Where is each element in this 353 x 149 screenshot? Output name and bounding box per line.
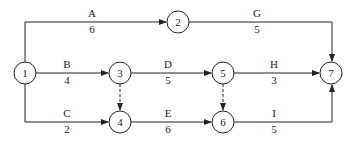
activity-b-duration: 4 bbox=[64, 74, 70, 86]
node-5: 5 bbox=[212, 62, 234, 84]
activity-g-duration: 5 bbox=[254, 23, 260, 35]
activity-c-name: C bbox=[63, 107, 70, 119]
activity-i-name: I bbox=[272, 107, 276, 119]
activity-g-arrow bbox=[189, 22, 332, 61]
node-3: 3 bbox=[109, 62, 131, 84]
activity-a-duration: 6 bbox=[89, 23, 95, 35]
node-7-label: 7 bbox=[328, 67, 334, 79]
node-1-label: 1 bbox=[22, 67, 28, 79]
activity-i-duration: 5 bbox=[271, 123, 277, 135]
network-diagram: A 6 B 4 C 2 D 5 E 6 G 5 H 3 I 5 1 2 3 4 … bbox=[0, 0, 353, 149]
activity-e-duration: 6 bbox=[165, 123, 171, 135]
activity-h-duration: 3 bbox=[271, 74, 277, 86]
node-6: 6 bbox=[212, 111, 234, 133]
node-2: 2 bbox=[167, 11, 189, 33]
node-4-label: 4 bbox=[117, 116, 123, 128]
activity-b-name: B bbox=[63, 58, 70, 70]
activity-g-name: G bbox=[253, 7, 261, 19]
activity-a-arrow bbox=[25, 22, 166, 62]
activity-d-duration: 5 bbox=[165, 74, 171, 86]
node-5-label: 5 bbox=[220, 67, 226, 79]
activity-d-name: D bbox=[164, 58, 172, 70]
activity-h-name: H bbox=[270, 58, 278, 70]
node-3-label: 3 bbox=[117, 67, 123, 79]
node-7: 7 bbox=[320, 62, 342, 84]
node-1: 1 bbox=[14, 62, 36, 84]
node-4: 4 bbox=[109, 111, 131, 133]
activity-e-name: E bbox=[165, 107, 172, 119]
node-6-label: 6 bbox=[220, 116, 226, 128]
activity-a-name: A bbox=[88, 7, 96, 19]
node-2-label: 2 bbox=[175, 16, 181, 28]
activity-c-duration: 2 bbox=[64, 123, 70, 135]
activity-i-arrow bbox=[234, 85, 332, 122]
